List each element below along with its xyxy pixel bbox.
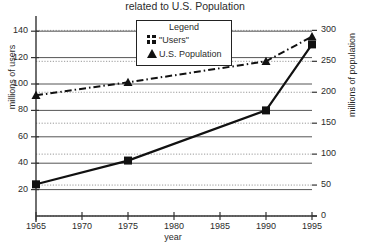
data-point-users <box>262 106 270 114</box>
legend: Legend "Users" U.S. Population <box>136 20 232 66</box>
data-point-users <box>308 40 316 48</box>
legend-item-users: "Users" <box>137 33 231 47</box>
data-point-users <box>124 157 132 165</box>
data-point-users <box>32 180 40 188</box>
legend-item-population: U.S. Population <box>137 47 231 61</box>
data-point-population <box>308 32 317 40</box>
square-marker-icon <box>145 34 159 46</box>
chart-container: related to U.S. Population millions of u… <box>0 0 370 246</box>
legend-title: Legend <box>137 22 231 33</box>
legend-item-label: "Users" <box>159 35 189 46</box>
triangle-marker-icon <box>145 48 159 60</box>
legend-item-label: U.S. Population <box>159 49 222 60</box>
